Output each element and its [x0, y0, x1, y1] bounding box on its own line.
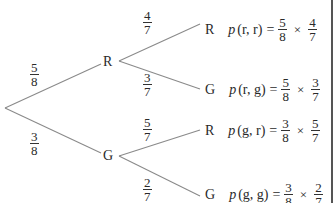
branch-G-G	[119, 156, 200, 196]
branch-G-R	[119, 130, 200, 156]
outcome-rg: G p (r, g) = 58 × 37	[205, 77, 320, 103]
prob-root-R: 58	[30, 62, 39, 88]
prob-R-R: 47	[143, 10, 152, 36]
outcome-gg: G p (g, g) = 38 × 27	[205, 182, 323, 203]
prob-G-G: 27	[143, 177, 152, 203]
branch-root-R	[5, 64, 101, 108]
branch-R-R	[119, 24, 200, 61]
branch-R-G	[119, 61, 200, 89]
branch-root-G	[5, 108, 101, 153]
node-G: G	[103, 149, 113, 163]
prob-R-G: 37	[143, 72, 152, 98]
leaf-node: G	[205, 83, 215, 97]
prob-root-G: 38	[30, 131, 39, 157]
outcome-rr: R p (r, r) = 58 × 47	[205, 17, 317, 43]
leaf-node: G	[205, 188, 215, 202]
right-border	[331, 0, 333, 203]
outcome-gr: R p (g, r) = 38 × 57	[205, 118, 320, 144]
leaf-node: R	[205, 124, 214, 138]
prob-G-R: 57	[143, 117, 152, 143]
node-R: R	[103, 55, 112, 69]
leaf-node: R	[205, 23, 214, 37]
